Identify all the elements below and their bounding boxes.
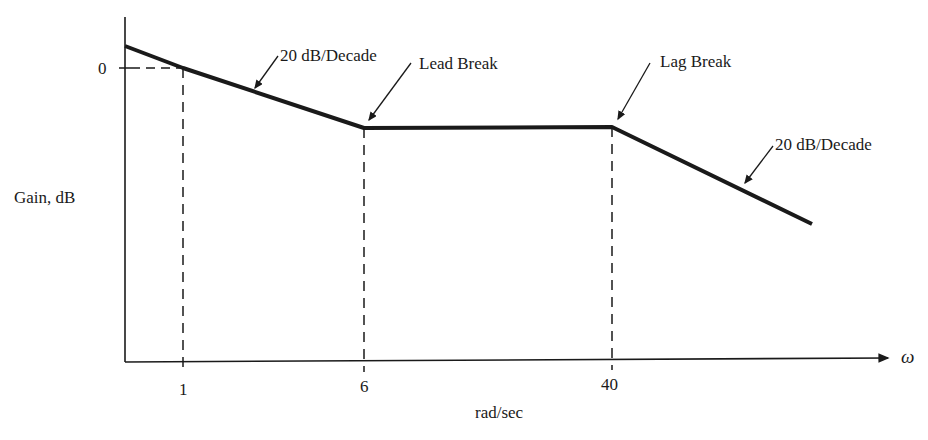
x-axis-unit-label: rad/sec (475, 404, 523, 421)
lead-break-annotation: Lead Break (419, 55, 498, 72)
lag-break-arrow (618, 63, 650, 119)
x-axis (125, 358, 888, 362)
x-tick-label-1: 1 (179, 381, 188, 398)
lag-break-annotation: Lag Break (660, 53, 731, 70)
slope-2-arrow (745, 146, 773, 183)
lead-break-arrow (369, 63, 411, 120)
x-tick-label-40: 40 (601, 376, 618, 393)
y-tick-label-zero: 0 (98, 60, 107, 77)
omega-symbol: ω (901, 347, 914, 366)
y-axis-label: Gain, dB (14, 189, 75, 206)
slope-1-arrow (255, 56, 278, 88)
x-tick-label-6: 6 (360, 378, 369, 395)
slope-1-annotation: 20 dB/Decade (280, 47, 377, 64)
slope-2-annotation: 20 dB/Decade (775, 136, 872, 153)
